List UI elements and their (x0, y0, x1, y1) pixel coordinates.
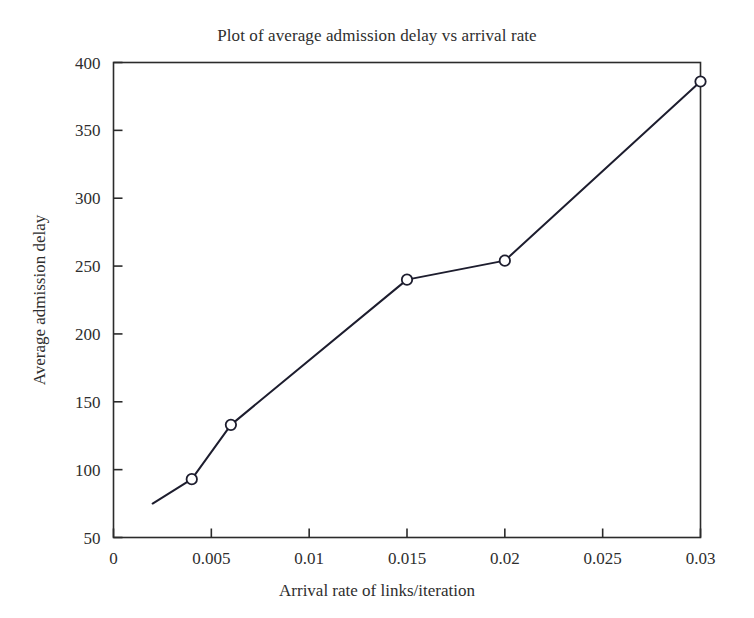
y-tick-label: 400 (75, 54, 101, 73)
y-tick-label: 350 (75, 121, 101, 140)
x-tick-label: 0.005 (192, 549, 230, 568)
data-point-marker (500, 255, 510, 265)
x-axis-ticks: 00.0050.010.0150.020.0250.03 (109, 529, 715, 568)
data-point-marker (402, 274, 412, 284)
x-axis-label: Arrival rate of links/iteration (0, 581, 754, 601)
x-tick-label: 0 (109, 549, 118, 568)
y-axis-ticks: 50100150200250300350400 (75, 54, 123, 548)
chart-figure: Plot of average admission delay vs arriv… (0, 0, 754, 618)
data-line (153, 82, 701, 504)
x-tick-label: 0.02 (490, 549, 520, 568)
x-tick-label: 0.01 (294, 549, 324, 568)
data-point-marker (187, 474, 197, 484)
y-tick-label: 100 (75, 461, 101, 480)
y-tick-label: 150 (75, 393, 101, 412)
y-tick-label: 200 (75, 325, 101, 344)
y-tick-label: 300 (75, 189, 101, 208)
series-line-group (153, 82, 701, 504)
plot-area: 00.0050.010.0150.020.0250.03 50100150200… (0, 0, 754, 618)
series-marker-group (187, 76, 706, 484)
data-point-marker (695, 76, 705, 86)
y-tick-label: 250 (75, 257, 101, 276)
x-tick-label: 0.015 (388, 549, 426, 568)
x-tick-label: 0.025 (584, 549, 622, 568)
data-point-marker (226, 420, 236, 430)
x-tick-label: 0.03 (686, 549, 716, 568)
y-tick-label: 50 (84, 529, 101, 548)
